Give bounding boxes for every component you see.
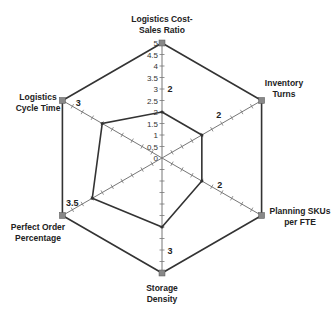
- vertex-marker: [159, 40, 165, 46]
- data-point: [200, 133, 203, 136]
- axis-label: Perfect Order: [11, 222, 66, 232]
- tick-label: 4.5: [147, 51, 159, 60]
- axis-label: Inventory: [265, 78, 304, 88]
- tick-label: 0: [154, 154, 159, 163]
- tick-label: 1: [154, 131, 159, 140]
- value-label: 2: [216, 110, 221, 120]
- data-point: [160, 225, 163, 228]
- tick-label: 1.5: [147, 120, 159, 129]
- axis-label: Turns: [273, 89, 296, 99]
- axis-label: Percentage: [15, 233, 61, 243]
- data-point: [160, 110, 163, 113]
- tick-label: 3.5: [147, 74, 159, 83]
- vertex-marker: [259, 98, 265, 104]
- axis-label: Storage: [146, 283, 178, 293]
- tick-label: 0.5: [147, 143, 159, 152]
- vertex-marker: [259, 213, 265, 219]
- data-series-polygon: [92, 112, 202, 227]
- value-label: 2: [167, 84, 172, 94]
- axis-label: per FTE: [284, 217, 316, 227]
- value-label: 3: [76, 98, 81, 108]
- axis-label: Density: [147, 294, 178, 304]
- vertex-marker: [159, 270, 165, 276]
- data-point: [200, 179, 203, 182]
- data-point: [101, 122, 104, 125]
- tick-label: 4: [154, 62, 159, 71]
- value-label: 3: [167, 246, 172, 256]
- axis-labels: Logistics Cost-Sales RatioInventoryTurns…: [11, 14, 331, 304]
- axis-label: Logistics: [19, 92, 57, 102]
- axis-label: Cycle Time: [16, 103, 61, 113]
- tick-label: 2.5: [147, 97, 159, 106]
- axis-label: Logistics Cost-: [131, 14, 193, 24]
- axis-label: Planning SKUs: [270, 206, 331, 216]
- tick-label: 3: [154, 85, 159, 94]
- value-labels: 22233.53: [66, 84, 222, 256]
- value-label: 2: [217, 180, 222, 190]
- vertex-marker: [59, 213, 65, 219]
- value-label: 3.5: [66, 198, 79, 208]
- axis-label: Sales Ratio: [139, 25, 185, 35]
- data-point: [91, 197, 94, 200]
- radar-tick-labels: 00.511.522.533.544.55: [147, 39, 159, 163]
- radar-chart: 00.511.522.533.544.55 22233.53 Logistics…: [0, 0, 334, 317]
